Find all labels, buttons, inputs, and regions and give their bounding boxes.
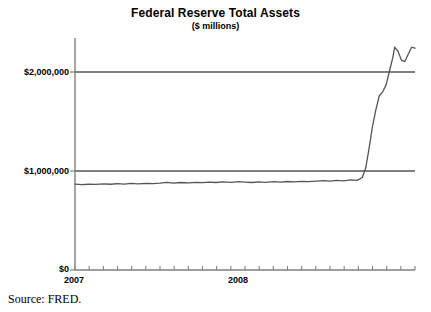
axes: [75, 38, 415, 270]
gridlines: [75, 72, 415, 171]
y-axis-label-0: $0: [3, 264, 69, 274]
y-tick-marks: [70, 72, 75, 270]
data-series-line: [75, 47, 415, 184]
y-axis-label-1000000: $1,000,000: [3, 166, 69, 176]
source-note: Source: FRED.: [8, 292, 81, 307]
chart-page: Federal Reserve Total Assets ($ millions…: [0, 0, 431, 312]
x-axis-label-2007: 2007: [64, 275, 84, 285]
y-axis-label-2000000: $2,000,000: [3, 67, 69, 77]
x-axis-label-2008: 2008: [228, 275, 248, 285]
